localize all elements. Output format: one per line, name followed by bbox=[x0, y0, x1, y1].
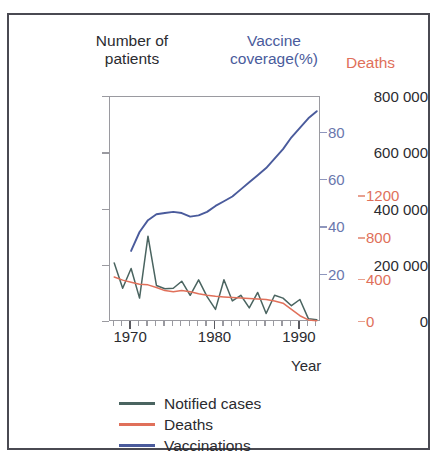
deaths-tickmark bbox=[358, 195, 365, 196]
vaccine-coverage-tickmark bbox=[320, 274, 327, 275]
vaccine-coverage-tick-label: 20 bbox=[328, 265, 345, 282]
x-axis-tick-label: 1970 bbox=[113, 328, 146, 345]
series-line-vaccinations bbox=[131, 111, 317, 251]
deaths-axis-title: Deaths bbox=[346, 54, 432, 72]
left-axis-tick-label: 0 bbox=[336, 313, 428, 330]
legend-item: Vaccinations bbox=[119, 435, 261, 456]
vaccine-coverage-axis-title: Vaccinecoverage(%) bbox=[199, 32, 349, 69]
legend-swatch-line-icon bbox=[119, 402, 155, 404]
legend-item-label: Vaccinations bbox=[164, 437, 251, 455]
vaccine-coverage-tick-label: 60 bbox=[328, 170, 345, 187]
legend-item-label: Notified cases bbox=[164, 395, 261, 413]
x-axis-tick-label: 1980 bbox=[198, 328, 231, 345]
deaths-tickmark bbox=[358, 237, 365, 238]
vaccine-coverage-tickmark bbox=[320, 226, 327, 227]
left-axis-tick-label: 800 000 bbox=[336, 88, 428, 105]
vaccine-coverage-tickmark bbox=[320, 132, 327, 133]
deaths-tick-label: 800 bbox=[366, 229, 391, 246]
vaccine-coverage-tickmark bbox=[320, 179, 327, 180]
plot-lines bbox=[110, 97, 321, 322]
deaths-tick-label: 400 bbox=[366, 271, 391, 288]
legend-item-label: Deaths bbox=[164, 416, 213, 434]
deaths-tickmark bbox=[358, 279, 365, 280]
deaths-tick-label: 1200 bbox=[366, 187, 399, 204]
left-axis-title: Number ofpatients bbox=[57, 32, 207, 69]
left-axis-tickmark bbox=[102, 321, 109, 322]
x-axis-tick-label: 1990 bbox=[282, 328, 315, 345]
series-line-notified-cases bbox=[114, 236, 317, 320]
legend-item: Notified cases bbox=[119, 393, 261, 414]
axis-title-line: Vaccine bbox=[199, 32, 349, 50]
left-axis-tick-label: 600 000 bbox=[336, 144, 428, 161]
legend-swatch-line-icon bbox=[119, 423, 155, 425]
vaccine-coverage-tick-label: 40 bbox=[328, 218, 345, 235]
legend-swatch-line-icon bbox=[119, 444, 155, 446]
plot-area bbox=[109, 96, 320, 321]
deaths-tick-label: 0 bbox=[366, 313, 374, 330]
legend: Notified casesDeathsVaccinations bbox=[119, 393, 261, 456]
legend-item: Deaths bbox=[119, 414, 261, 435]
deaths-tickmark bbox=[358, 321, 365, 322]
figure-frame: Number ofpatients Vaccinecoverage(%) Dea… bbox=[7, 13, 430, 450]
left-axis-tickmark bbox=[102, 152, 109, 153]
axis-title-line: patients bbox=[57, 50, 207, 68]
axis-title-line: Number of bbox=[57, 32, 207, 50]
left-axis-tickmark bbox=[102, 265, 109, 266]
left-axis-tickmark bbox=[102, 96, 109, 97]
left-axis-tickmark bbox=[102, 209, 109, 210]
series-line-deaths bbox=[114, 277, 317, 321]
x-axis-title: Year bbox=[291, 357, 321, 374]
axis-title-line: coverage(%) bbox=[199, 50, 349, 68]
vaccine-coverage-tick-label: 80 bbox=[328, 123, 345, 140]
